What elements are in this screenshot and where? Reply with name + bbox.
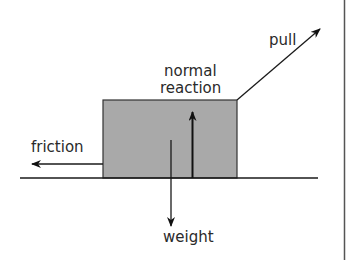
pull-label: pull	[269, 32, 296, 49]
weight-label: weight	[163, 229, 214, 246]
block	[103, 100, 237, 178]
normal-label-line1: normal	[164, 63, 217, 80]
normal-label-line2: reaction	[160, 80, 221, 97]
friction-label: friction	[31, 139, 84, 156]
